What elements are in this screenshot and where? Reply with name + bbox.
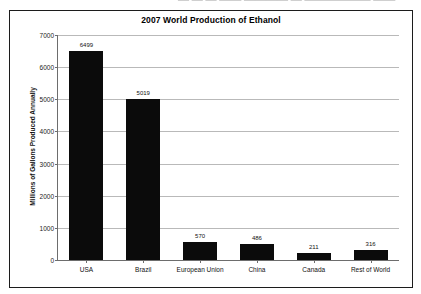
y-tick-label: 6000: [40, 64, 54, 71]
bar-group: 316Rest of World: [342, 35, 399, 260]
chart-figure-frame: 2007 World Production of Ethanol Million…: [9, 10, 413, 288]
y-tick-label: 5000: [40, 96, 54, 103]
x-tick-label: Brazil: [135, 266, 151, 273]
y-axis-title: Millions of Gallons Produced Annually: [29, 72, 36, 222]
bar[interactable]: [126, 99, 160, 260]
x-tick-mark: [86, 260, 87, 263]
x-tick-label: Rest of World: [351, 266, 390, 273]
y-tick-label: 0: [50, 257, 54, 264]
chart-title: 2007 World Production of Ethanol: [10, 15, 412, 25]
bar[interactable]: [69, 51, 103, 260]
bar-group: 5019Brazil: [115, 35, 172, 260]
y-tick-label: 2000: [40, 192, 54, 199]
cropped-header-text: — — — —— ———— — —————— ——: [0, 0, 421, 9]
bar-value-label: 570: [195, 233, 205, 239]
x-tick-mark: [314, 260, 315, 263]
bar[interactable]: [183, 242, 217, 260]
bar-value-label: 211: [309, 244, 319, 250]
y-tick-label: 1000: [40, 224, 54, 231]
y-tick-label: 4000: [40, 128, 54, 135]
bar[interactable]: [297, 253, 331, 260]
bar[interactable]: [354, 250, 388, 260]
y-tick-label: 3000: [40, 160, 54, 167]
bar-value-label: 5019: [137, 90, 150, 96]
bar-group: 570European Union: [172, 35, 229, 260]
bar-group: 486China: [229, 35, 286, 260]
bar-value-label: 486: [252, 235, 262, 241]
x-tick-label: China: [248, 266, 265, 273]
y-tick-mark: [55, 260, 58, 261]
x-tick-label: USA: [80, 266, 93, 273]
cropped-header-text-content: — — — —— ———— — —————— ——: [178, 0, 395, 5]
x-tick-mark: [371, 260, 372, 263]
y-tick-label: 7000: [40, 32, 54, 39]
gridline: [58, 260, 399, 261]
x-tick-mark: [200, 260, 201, 263]
bar-group: 6499USA: [58, 35, 115, 260]
plot-area: 01000200030004000500060007000 6499USA501…: [57, 35, 399, 261]
bar-group: 211Canada: [285, 35, 342, 260]
x-tick-label: Canada: [302, 266, 325, 273]
bar[interactable]: [240, 244, 274, 260]
x-tick-mark: [257, 260, 258, 263]
x-tick-mark: [143, 260, 144, 263]
bar-value-label: 316: [366, 241, 376, 247]
bar-value-label: 6499: [80, 42, 93, 48]
bars-layer: 6499USA5019Brazil570European Union486Chi…: [58, 35, 399, 260]
x-tick-label: European Union: [177, 266, 224, 273]
